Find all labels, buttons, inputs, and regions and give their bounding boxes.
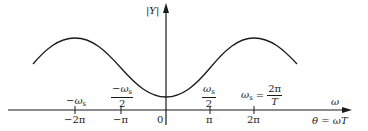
y-axis-arrow-icon: [163, 3, 169, 13]
y-axis-label: |Y|: [146, 6, 159, 16]
fraction-numerator: ωs: [202, 84, 216, 98]
fraction-numerator: 2π: [267, 84, 282, 96]
neg-omega-text: −ω: [66, 95, 83, 106]
tick-label-2pi: 2π: [247, 115, 260, 125]
omega-s-lhs: ωs: [241, 89, 253, 102]
x-axis-label-theta: θ = ωT: [312, 116, 348, 126]
tick-label-zero: 0: [157, 115, 163, 125]
diagram-canvas: [0, 0, 368, 131]
fraction-denominator: T: [271, 96, 278, 107]
label-omega-s-definition: ωs = 2π T: [241, 84, 282, 107]
tick-label-pi: π: [206, 115, 213, 125]
fraction-denominator: 2: [119, 98, 125, 109]
subscript-s: s: [211, 88, 215, 96]
tick-label-neg-2pi: −2π: [64, 115, 85, 125]
x-axis-label-omega: ω: [331, 97, 339, 107]
subscript-s: s: [129, 88, 133, 96]
label-neg-omega-s-half: −ωs 2: [111, 84, 133, 109]
tick-label-neg-pi: −π: [113, 115, 128, 125]
label-omega-s-half: ωs 2: [202, 84, 216, 109]
fraction-denominator: 2: [206, 98, 212, 109]
neg-omega-text: −ω: [112, 83, 129, 94]
x-axis-arrow-icon: [342, 107, 352, 113]
fraction-2pi-over-T: 2π T: [267, 84, 282, 107]
label-neg-omega-s: −ωs: [66, 96, 86, 108]
subscript-s: s: [249, 94, 253, 102]
omega-text: ω: [203, 83, 211, 94]
omega-text: ω: [241, 89, 249, 100]
subscript-s: s: [83, 100, 87, 108]
fraction-numerator: −ωs: [111, 84, 133, 98]
equals-sign: =: [256, 90, 264, 101]
